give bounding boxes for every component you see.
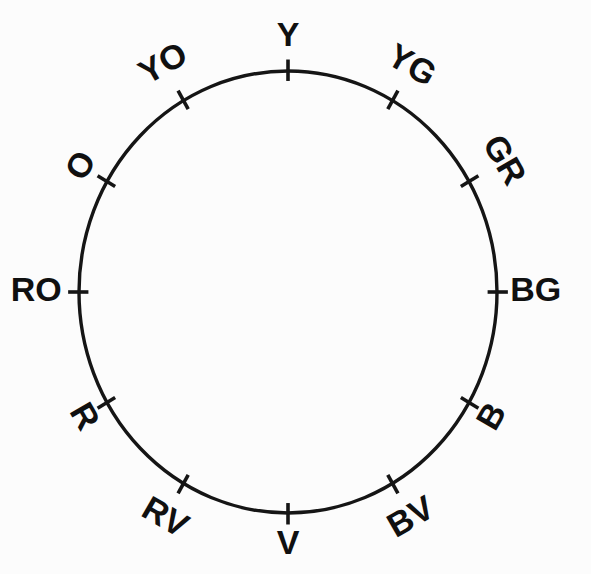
hue-label-v: V [277, 523, 300, 561]
hue-label-bv: BV [380, 488, 440, 545]
hue-label-yg: YG [382, 36, 444, 93]
hue-label-bg: BG [510, 270, 561, 308]
hue-label-ro: RO [11, 270, 62, 308]
hue-label-yo: YO [132, 34, 194, 91]
hue-label-rv: RV [136, 488, 196, 544]
hue-tick-group [68, 60, 508, 525]
hue-label-group: YYGGRBGBBVVRVRROOYO [11, 15, 562, 561]
color-wheel-svg: YYGGRBGBBVVRVRROOYO [0, 0, 591, 574]
hue-label-gr: GR [476, 128, 534, 191]
hue-label-r: R [63, 396, 108, 436]
hue-label-b: B [468, 396, 513, 436]
color-wheel-figure: YYGGRBGBBVVRVRROOYO [0, 0, 591, 574]
hue-label-o: O [57, 144, 103, 186]
hue-label-y: Y [277, 15, 300, 53]
color-wheel-ring [79, 71, 497, 513]
